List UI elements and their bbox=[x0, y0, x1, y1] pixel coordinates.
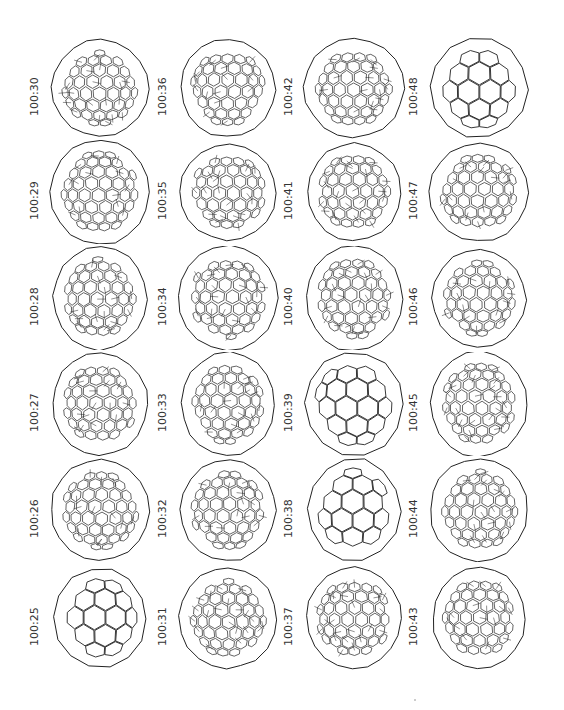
fullerene-wireframe-icon bbox=[176, 566, 280, 670]
isomer-label: 100:32 bbox=[156, 499, 169, 538]
isomer-label: 100:40 bbox=[282, 287, 295, 326]
isomer-cell-100-43: 100:43 bbox=[407, 566, 537, 674]
isomer-cell-100-36: 100:36 bbox=[156, 36, 286, 144]
isomer-cell-100-48: 100:48 bbox=[407, 36, 537, 144]
fullerene-wireframe-icon bbox=[302, 140, 406, 244]
isomer-label: 100:29 bbox=[28, 181, 41, 220]
isomer-label: 100:37 bbox=[282, 607, 295, 646]
isomer-label: 100:46 bbox=[407, 287, 420, 326]
isomer-label: 100:28 bbox=[28, 287, 41, 326]
isomer-cell-100-42: 100:42 bbox=[282, 36, 412, 144]
fullerene-wireframe-icon bbox=[427, 246, 531, 350]
fullerene-wireframe-icon bbox=[176, 36, 280, 140]
isomer-label: 100:42 bbox=[282, 77, 295, 116]
isomer-cell-100-45: 100:45 bbox=[407, 352, 537, 460]
isomer-cell-100-29: 100:29 bbox=[28, 140, 158, 248]
isomer-label: 100:33 bbox=[156, 393, 169, 432]
isomer-label: 100:39 bbox=[282, 393, 295, 432]
isomer-cell-100-25: 100:25 bbox=[28, 566, 158, 674]
isomer-label: 100:25 bbox=[28, 607, 41, 646]
isomer-label: 100:44 bbox=[407, 499, 420, 538]
isomer-cell-100-31: 100:31 bbox=[156, 566, 286, 674]
fullerene-wireframe-icon bbox=[48, 458, 152, 562]
isomer-cell-100-30: 100:30 bbox=[28, 36, 158, 144]
isomer-cell-100-27: 100:27 bbox=[28, 352, 158, 460]
isomer-label: 100:34 bbox=[156, 287, 169, 326]
isomer-label: 100:45 bbox=[407, 393, 420, 432]
fullerene-wireframe-icon bbox=[302, 246, 406, 350]
isomer-label: 100:43 bbox=[407, 607, 420, 646]
isomer-cell-100-35: 100:35 bbox=[156, 140, 286, 248]
isomer-cell-100-28: 100:28 bbox=[28, 246, 158, 354]
isomer-label: 100:30 bbox=[28, 77, 41, 116]
stray-mark bbox=[414, 699, 416, 701]
isomer-label: 100:36 bbox=[156, 77, 169, 116]
isomer-label: 100:47 bbox=[407, 181, 420, 220]
fullerene-wireframe-icon bbox=[176, 140, 280, 244]
isomer-cell-100-34: 100:34 bbox=[156, 246, 286, 354]
isomer-label: 100:41 bbox=[282, 181, 295, 220]
fullerene-wireframe-icon bbox=[427, 458, 531, 562]
isomer-label: 100:31 bbox=[156, 607, 169, 646]
isomer-cell-100-39: 100:39 bbox=[282, 352, 412, 460]
isomer-cell-100-33: 100:33 bbox=[156, 352, 286, 460]
isomer-cell-100-46: 100:46 bbox=[407, 246, 537, 354]
fullerene-wireframe-icon bbox=[302, 352, 406, 456]
fullerene-wireframe-icon bbox=[48, 140, 152, 244]
isomer-cell-100-44: 100:44 bbox=[407, 458, 537, 566]
fullerene-wireframe-icon bbox=[302, 36, 406, 140]
fullerene-wireframe-icon bbox=[427, 36, 531, 140]
isomer-label: 100:38 bbox=[282, 499, 295, 538]
fullerene-wireframe-icon bbox=[176, 246, 280, 350]
isomer-cell-100-40: 100:40 bbox=[282, 246, 412, 354]
isomer-cell-100-41: 100:41 bbox=[282, 140, 412, 248]
isomer-cell-100-26: 100:26 bbox=[28, 458, 158, 566]
isomer-label: 100:26 bbox=[28, 499, 41, 538]
isomer-label: 100:35 bbox=[156, 181, 169, 220]
isomer-cell-100-38: 100:38 bbox=[282, 458, 412, 566]
isomer-label: 100:27 bbox=[28, 393, 41, 432]
fullerene-wireframe-icon bbox=[427, 140, 531, 244]
isomer-cell-100-47: 100:47 bbox=[407, 140, 537, 248]
isomer-label: 100:48 bbox=[407, 77, 420, 116]
fullerene-wireframe-icon bbox=[427, 352, 531, 456]
fullerene-wireframe-icon bbox=[48, 36, 152, 140]
fullerene-wireframe-icon bbox=[302, 458, 406, 562]
fullerene-wireframe-icon bbox=[427, 566, 531, 670]
isomer-cell-100-32: 100:32 bbox=[156, 458, 286, 566]
fullerene-wireframe-icon bbox=[48, 352, 152, 456]
fullerene-wireframe-icon bbox=[48, 566, 152, 670]
fullerene-wireframe-icon bbox=[176, 458, 280, 562]
fullerene-wireframe-icon bbox=[48, 246, 152, 350]
isomer-cell-100-37: 100:37 bbox=[282, 566, 412, 674]
fullerene-wireframe-icon bbox=[302, 566, 406, 670]
fullerene-wireframe-icon bbox=[176, 352, 280, 456]
